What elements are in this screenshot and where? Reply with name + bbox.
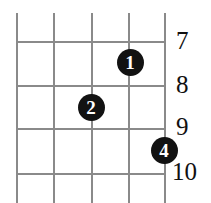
finger-dot-4: 4 (151, 137, 178, 164)
fret-number-7: 7 (176, 28, 189, 53)
string-line-5 (164, 13, 166, 203)
fret-number-8: 8 (176, 72, 189, 97)
fret-line-10 (16, 173, 164, 175)
fret-line-9 (16, 128, 164, 130)
fret-line-8 (16, 85, 164, 87)
fret-line-7 (16, 41, 164, 43)
finger-dot-1: 1 (117, 49, 144, 76)
fret-number-9: 9 (176, 114, 189, 139)
fret-number-10: 10 (172, 159, 197, 184)
finger-dot-2: 2 (78, 94, 105, 121)
chord-diagram: 7 8 9 10 1 2 4 (0, 0, 211, 203)
